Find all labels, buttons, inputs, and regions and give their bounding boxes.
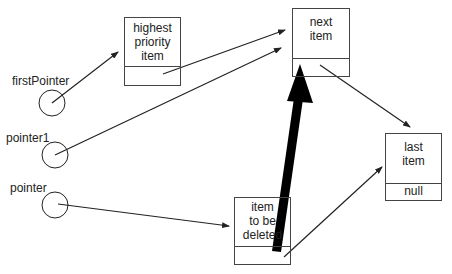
node-text: last — [404, 140, 423, 154]
node-text: item — [402, 154, 425, 168]
deleted-to-last-arrow — [284, 167, 382, 257]
node-last-item: last item null — [385, 133, 442, 201]
pointer-label: pointer — [10, 181, 47, 195]
firstPointer-label: firstPointer — [12, 74, 69, 88]
node-highest-priority: highest priority item — [124, 17, 181, 86]
node-next-item: next item — [292, 8, 350, 77]
node-text: priority — [134, 35, 170, 49]
node-text: item — [141, 49, 164, 63]
node-text: next — [310, 15, 333, 29]
node-next-field: null — [404, 184, 423, 198]
node-text: deleted — [243, 228, 282, 242]
node-text: item — [251, 200, 274, 214]
node-text: to be — [249, 214, 276, 228]
node-text: highest — [133, 21, 172, 35]
node-item-to-be-deleted: item to be deleted — [234, 197, 291, 265]
node-text: item — [310, 29, 333, 43]
pointer1-label: pointer1 — [6, 131, 49, 145]
pointer-arrow — [58, 204, 229, 226]
highest-to-next-arrow — [163, 30, 285, 74]
